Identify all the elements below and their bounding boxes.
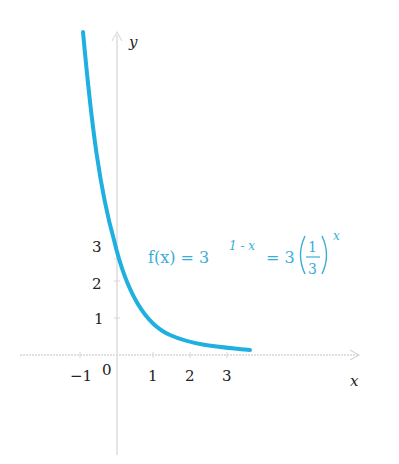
y-axis-label: y xyxy=(128,33,138,51)
fraction-denominator: 3 xyxy=(308,261,317,277)
function-label-exponent-x: x xyxy=(333,229,340,243)
function-label: f(x) = 3 1 - x = 3 1 3 x xyxy=(148,229,340,277)
chart-canvas: y x −1 0 1 2 3 1 2 3 f(x) = 3 1 - x = 3 … xyxy=(0,0,399,464)
x-tick-label-2: 2 xyxy=(185,367,195,385)
x-tick-label-neg1: −1 xyxy=(70,367,92,385)
y-tick-label-1: 1 xyxy=(94,310,104,328)
function-label-mid: = 3 xyxy=(266,248,295,267)
function-curve xyxy=(83,32,250,350)
y-tick-label-2: 2 xyxy=(92,275,102,293)
fraction-numerator: 1 xyxy=(308,239,317,255)
left-paren-icon xyxy=(301,236,306,274)
function-label-lhs: f(x) = 3 xyxy=(148,248,209,267)
x-tick-label-3: 3 xyxy=(222,367,232,385)
x-tick-label-1: 1 xyxy=(148,367,158,385)
right-paren-icon xyxy=(322,236,327,274)
y-tick-label-3: 3 xyxy=(92,238,102,256)
function-label-exponent: 1 - x xyxy=(229,239,255,253)
x-axis-label: x xyxy=(350,372,359,390)
origin-label: 0 xyxy=(102,361,112,379)
